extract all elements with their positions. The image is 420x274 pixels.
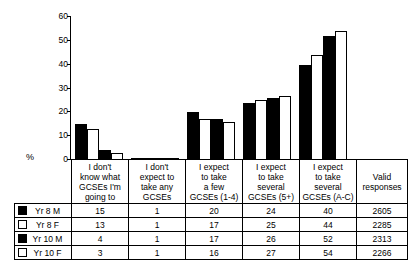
bar-group <box>243 12 291 160</box>
table-cell: 25 <box>243 218 300 232</box>
header-line: going to <box>72 192 128 202</box>
legend-entry: Yr 10 M <box>15 232 72 246</box>
header-line: Valid <box>357 172 407 182</box>
table-cell: 52 <box>300 232 357 246</box>
y-tick-label: 20 <box>46 107 68 116</box>
table-cell: 54 <box>300 246 357 260</box>
grouped-bar-chart-figure: 6050403020100 % I don'tknow whatGCSEs I'… <box>0 0 420 274</box>
header-line: I expect <box>186 162 242 172</box>
bar <box>299 65 311 160</box>
legend-label: Yr 10 M <box>27 234 71 244</box>
y-tick-mark <box>67 16 70 17</box>
table-cell: 1 <box>129 204 186 218</box>
table-cell: 44 <box>300 218 357 232</box>
table-cell: 2285 <box>357 218 408 232</box>
table-column-header: I don'tknow whatGCSEs I'mgoing to <box>72 160 129 204</box>
header-line: several <box>243 182 299 192</box>
header-line: GCSEs (5+) <box>243 192 299 202</box>
table-cell: 3 <box>72 246 129 260</box>
table-column-header: I expectto takea fewGCSEs (1-4) <box>186 160 243 204</box>
table-row: Yr 10 F311627542266 <box>15 246 408 260</box>
header-line: expect to <box>129 172 185 182</box>
bar-group <box>131 12 179 160</box>
table-cell: 2266 <box>357 246 408 260</box>
bar <box>87 129 99 160</box>
header-line: GCSEs <box>129 192 185 202</box>
table-column-header: Validresponses <box>357 160 408 204</box>
y-tick-label: 50 <box>46 36 68 45</box>
y-tick-label: 40 <box>46 60 68 69</box>
bar <box>75 124 87 160</box>
table-row: Yr 10 M411726522313 <box>15 232 408 246</box>
table-cell: 17 <box>186 218 243 232</box>
y-tick-label: 30 <box>46 84 68 93</box>
table-cell: 2605 <box>357 204 408 218</box>
header-line: take any <box>129 182 185 192</box>
y-tick-label: 60 <box>46 12 68 21</box>
y-tick-mark <box>67 135 70 136</box>
bar <box>199 119 211 160</box>
bar <box>211 119 223 160</box>
bars-layer <box>71 12 365 160</box>
header-line: I don't <box>129 162 185 172</box>
legend-entry-inner: Yr 8 M <box>15 206 71 216</box>
legend-label: Yr 10 F <box>27 248 71 258</box>
data-table: I don'tknow whatGCSEs I'mgoing toI don't… <box>14 159 408 260</box>
table-cell: 24 <box>243 204 300 218</box>
header-line: I expect <box>300 162 356 172</box>
header-line: know what <box>72 172 128 182</box>
header-line: GCSEs (1-4) <box>186 192 242 202</box>
legend-entry-inner: Yr 8 F <box>15 220 71 230</box>
bar <box>243 103 255 160</box>
header-line: several <box>300 182 356 192</box>
bar <box>255 100 267 160</box>
table-column-header: I expectto takeseveralGCSEs (5+) <box>243 160 300 204</box>
bar <box>279 96 291 160</box>
legend-entry: Yr 8 F <box>15 218 72 232</box>
bar <box>223 122 235 160</box>
bar <box>335 31 347 160</box>
bar <box>267 98 279 160</box>
table-column-header: I expectto takeseveralGCSEs (A-C) <box>300 160 357 204</box>
header-line: GCSEs I'm <box>72 182 128 192</box>
table-header: I don'tknow whatGCSEs I'mgoing toI don't… <box>15 160 408 204</box>
header-line: to take <box>186 172 242 182</box>
table-cell: 2313 <box>357 232 408 246</box>
table-body: Yr 8 M1512024402605Yr 8 F1311725442285Yr… <box>15 204 408 260</box>
table-cell: 26 <box>243 232 300 246</box>
table-cell: 17 <box>186 232 243 246</box>
table-cell: 27 <box>243 246 300 260</box>
table-cell: 40 <box>300 204 357 218</box>
legend-spacer-cell <box>15 160 72 204</box>
legend-label: Yr 8 M <box>27 206 71 216</box>
bar <box>187 112 199 160</box>
legend-swatch-icon <box>18 220 27 229</box>
bar-group <box>299 12 347 160</box>
table-cell: 4 <box>72 232 129 246</box>
table-cell: 20 <box>186 204 243 218</box>
header-line: responses <box>357 182 407 192</box>
y-tick-mark <box>67 111 70 112</box>
header-line: GCSEs (A-C) <box>300 192 356 202</box>
bar-group <box>75 12 123 160</box>
header-line: I expect <box>243 162 299 172</box>
table-cell: 1 <box>129 246 186 260</box>
legend-swatch-icon <box>18 206 27 215</box>
table-cell: 1 <box>129 232 186 246</box>
legend-entry-inner: Yr 10 M <box>15 234 71 244</box>
table-cell: 13 <box>72 218 129 232</box>
legend-swatch-icon <box>18 248 27 257</box>
table-row: Yr 8 F1311725442285 <box>15 218 408 232</box>
legend-label: Yr 8 F <box>27 220 71 230</box>
legend-swatch-icon <box>18 234 27 243</box>
legend-entry-inner: Yr 10 F <box>15 248 71 258</box>
header-line: to take <box>243 172 299 182</box>
legend-entry: Yr 10 F <box>15 246 72 260</box>
header-line: I don't <box>72 162 128 172</box>
table-row: Yr 8 M1512024402605 <box>15 204 408 218</box>
table-cell: 15 <box>72 204 129 218</box>
legend-entry: Yr 8 M <box>15 204 72 218</box>
y-tick-mark <box>67 64 70 65</box>
table-cell: 16 <box>186 246 243 260</box>
bar-group <box>187 12 235 160</box>
